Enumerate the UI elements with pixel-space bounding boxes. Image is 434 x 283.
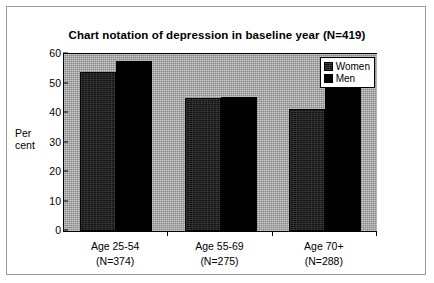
y-axis-tick-mark	[63, 230, 68, 231]
legend-swatch-men-icon	[324, 74, 333, 83]
x-axis-group-label: Age 25-54(N=374)	[63, 239, 167, 269]
x-axis-category-n: (N=275)	[167, 254, 271, 269]
page-title: Chart notation of depression in baseline…	[7, 29, 427, 41]
y-axis-tick-mark	[63, 112, 68, 113]
x-axis-category-n: (N=288)	[272, 254, 376, 269]
bar-men-age-25-54	[116, 61, 152, 231]
y-axis-tick-mark	[63, 82, 68, 83]
chart-figure: Chart notation of depression in baseline…	[6, 6, 426, 275]
y-axis-tick-mark	[63, 171, 68, 172]
y-axis-tick-mark	[63, 200, 68, 201]
x-axis-category: Age 25-54	[63, 239, 167, 254]
y-axis-tick-label: 50	[27, 77, 61, 89]
bar-women-age-55-69	[185, 98, 221, 231]
legend-label-men: Men	[336, 73, 355, 84]
x-axis-tick-mark	[272, 231, 273, 236]
x-axis-tick-mark	[167, 231, 168, 236]
plot-area: Women Men	[63, 53, 377, 232]
y-axis-tick-mark	[63, 53, 68, 54]
x-axis-tick-mark	[376, 231, 377, 236]
y-axis-tick-label: 0	[27, 224, 61, 236]
legend-item-women: Women	[324, 61, 370, 72]
legend-item-men: Men	[324, 73, 370, 84]
bar-women-age-25-54	[80, 72, 116, 231]
x-axis-group-label: Age 70+(N=288)	[272, 239, 376, 269]
y-axis-tick-mark	[63, 141, 68, 142]
y-axis-tick-label: 30	[27, 136, 61, 148]
bar-women-age-70-	[289, 109, 325, 231]
legend-swatch-women-icon	[324, 62, 333, 71]
y-axis-tick-label: 60	[27, 47, 61, 59]
bar-men-age-55-69	[221, 97, 257, 231]
x-axis-tick-labels: Age 25-54(N=374)Age 55-69(N=275)Age 70+(…	[63, 239, 378, 273]
chart-legend: Women Men	[320, 57, 375, 88]
y-axis-tick-label: 20	[27, 165, 61, 177]
y-axis-tick-label: 40	[27, 106, 61, 118]
x-axis-group-label: Age 55-69(N=275)	[167, 239, 271, 269]
y-axis-tick-labels: 0102030405060	[21, 53, 61, 232]
x-axis-category-n: (N=374)	[63, 254, 167, 269]
x-axis-category: Age 55-69	[167, 239, 271, 254]
y-axis-tick-label: 10	[27, 195, 61, 207]
x-axis-category: Age 70+	[272, 239, 376, 254]
legend-label-women: Women	[336, 61, 370, 72]
bar-men-age-70-	[325, 88, 361, 231]
